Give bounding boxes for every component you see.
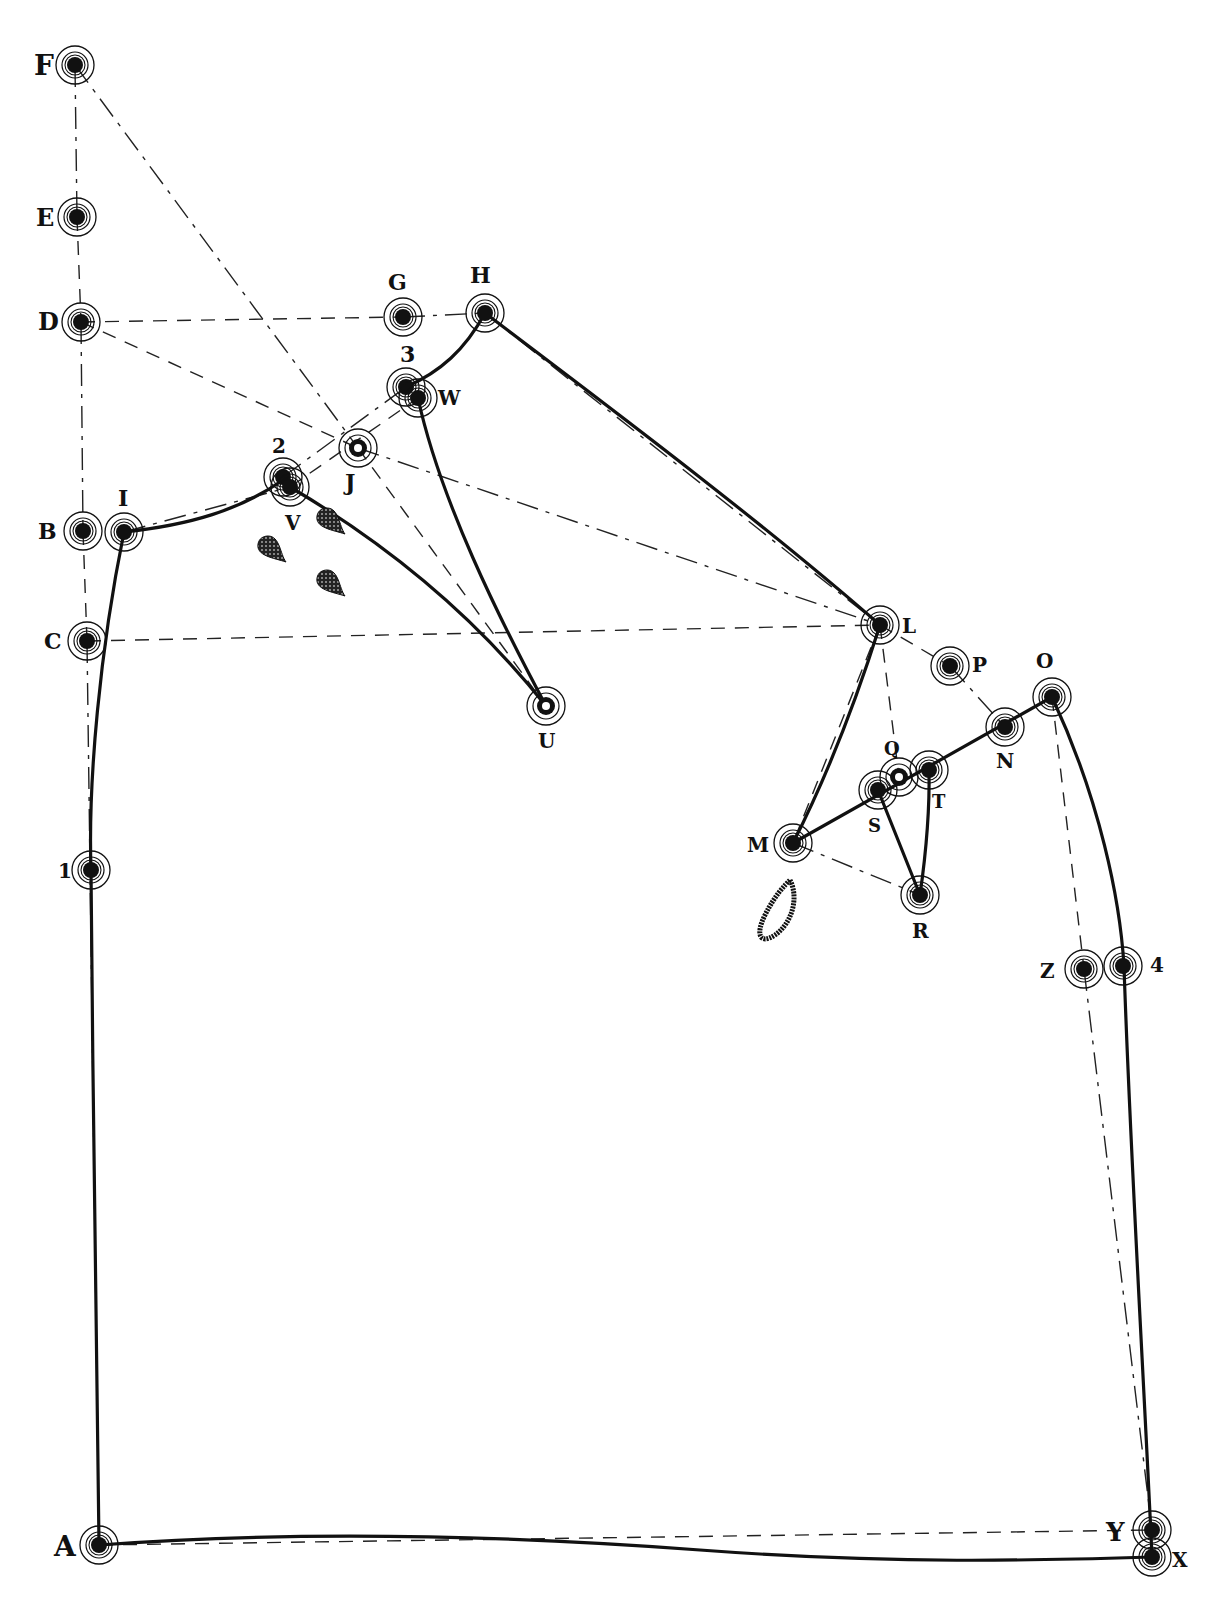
seam-front-edge (91, 532, 124, 1545)
point-label-V: V (284, 511, 301, 535)
construction-line-E-D (77, 217, 81, 322)
point-E (58, 198, 96, 236)
point-I (105, 513, 143, 551)
construction-line-C-L (87, 625, 880, 641)
point-label-B: B (38, 518, 57, 544)
point-label-Z: Z (1040, 959, 1055, 983)
point-label-E: E (36, 203, 54, 232)
point-O (1033, 678, 1071, 716)
point-label-A: A (53, 1530, 77, 1563)
construction-line-D-B (81, 322, 83, 531)
point-B (64, 512, 102, 550)
point-N (986, 708, 1024, 746)
point-1 (72, 851, 110, 889)
point-label-N: N (996, 749, 1014, 773)
construction-line-J-L (358, 448, 880, 625)
point-label-D: D (38, 307, 59, 336)
point-G (384, 298, 422, 336)
construction-line-F-J (75, 65, 358, 448)
construction-line-L-M (793, 625, 880, 843)
point-label-M: M (747, 833, 769, 857)
pattern-draft-diagram: FEDGH3WJ2VBICULPONQTSMR1Z4AYX (0, 0, 1215, 1599)
point-X (1133, 1538, 1171, 1576)
point-V (271, 468, 309, 506)
point-label-L: L (902, 614, 916, 638)
point-label-3: 3 (400, 341, 415, 367)
point-label-2: 2 (272, 434, 286, 458)
pocket-loop-mark (760, 880, 794, 939)
construction-line-I-V (124, 487, 290, 532)
point-label-1: 1 (58, 859, 72, 883)
point-Z (1065, 950, 1103, 988)
point-labels: FEDGH3WJ2VBICULPONQTSMR1Z4AYX (34, 49, 1188, 1572)
point-label-Y: Y (1105, 1517, 1125, 1547)
point-label-R: R (912, 919, 929, 943)
point-label-P: P (972, 653, 987, 677)
seam-dart-right (418, 398, 546, 706)
point-C (68, 622, 106, 660)
point-S (859, 771, 897, 809)
point-label-U: U (538, 729, 555, 753)
construction-lines (75, 65, 1152, 1545)
point-label-H: H (470, 262, 491, 288)
seam-hem (99, 1536, 1152, 1560)
point-label-Q: Q (884, 738, 900, 759)
construction-line-B-C (83, 531, 87, 641)
construction-line-F-E (75, 65, 77, 217)
button-mark-1 (258, 536, 286, 562)
point-A (80, 1526, 118, 1564)
point-label-J: J (343, 469, 355, 495)
point-F (56, 46, 94, 84)
point-4 (1104, 947, 1142, 985)
point-R (901, 876, 939, 914)
point-label-I: I (118, 485, 128, 511)
construction-line-D-J (81, 322, 358, 448)
seam-gorge-3-H (406, 313, 485, 387)
point-label-X: X (1172, 1548, 1188, 1572)
point-P (931, 647, 969, 685)
seam-dart-S-R (878, 790, 920, 895)
construction-line-2-3 (283, 387, 406, 477)
point-label-4: 4 (1150, 953, 1164, 977)
point-T (910, 751, 948, 789)
button-mark-2 (317, 508, 345, 534)
point-label-G: G (388, 269, 407, 295)
point-D (62, 303, 100, 341)
point-U (527, 687, 565, 725)
seam-neck-curve (124, 480, 283, 532)
construction-line-D-G (81, 317, 403, 322)
point-label-C: C (44, 628, 62, 654)
construction-line-J-U (358, 448, 546, 706)
point-label-F: F (34, 49, 54, 82)
point-label-T: T (932, 791, 946, 812)
marks (258, 508, 794, 939)
point-L (861, 606, 899, 644)
point-H (466, 294, 504, 332)
seam-paths (91, 313, 1152, 1560)
point-label-W: W (437, 386, 461, 410)
construction-line-Z-Y (1084, 969, 1152, 1530)
point-M (774, 824, 812, 862)
point-J (339, 429, 377, 467)
reference-points (56, 46, 1171, 1576)
point-label-S: S (868, 815, 881, 836)
point-W (399, 379, 437, 417)
point-label-O: O (1036, 649, 1053, 673)
button-mark-3 (317, 570, 345, 596)
